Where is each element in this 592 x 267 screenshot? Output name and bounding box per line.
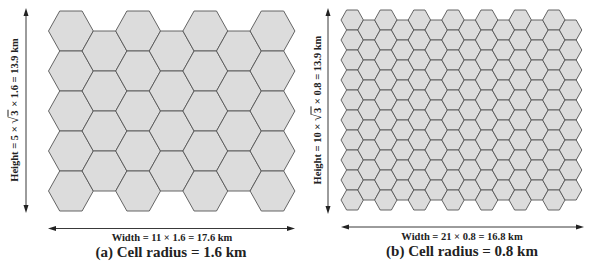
arrowhead-right-icon <box>287 226 295 231</box>
height-arrow-a <box>24 8 29 213</box>
height-label-suffix: × 0.8 = 13.9 km <box>312 36 323 107</box>
arrowhead-left-icon <box>48 226 56 231</box>
height-label-b: Height = 10 × √3 × 0.8 = 13.9 km <box>312 36 323 185</box>
caption-b: (b) Cell radius = 0.8 km <box>386 243 538 260</box>
height-label-a: Height = 5 × √3 × 1.6 = 13.9 km <box>9 38 20 182</box>
square-root-symbol: √3 <box>9 109 20 123</box>
arrowhead-right-icon <box>576 225 584 230</box>
height-label-prefix: Height = 10 × <box>312 121 323 184</box>
width-arrow-a <box>48 226 295 231</box>
caption-a: (a) Cell radius = 1.6 km <box>95 244 246 261</box>
height-arrow-b <box>326 8 331 214</box>
arrowhead-down-icon <box>326 206 331 214</box>
hex-grid-small-cells <box>341 10 582 210</box>
square-root-symbol: √3 <box>312 107 323 121</box>
hex-grid-large-cells <box>49 11 295 211</box>
arrowhead-down-icon <box>24 205 29 213</box>
height-label-prefix: Height = 5 × <box>9 124 20 182</box>
height-label-suffix: × 1.6 = 13.9 km <box>9 38 20 109</box>
width-label-b: Width = 21 × 0.8 = 16.8 km <box>401 231 522 242</box>
width-arrow-b <box>341 225 584 230</box>
arrowhead-left-icon <box>341 225 349 230</box>
arrowhead-up-icon <box>24 8 29 16</box>
arrowhead-up-icon <box>326 8 331 16</box>
hexagonal-cell-diagram <box>0 0 592 267</box>
width-label-a: Width = 11 × 1.6 = 17.6 km <box>112 232 233 243</box>
